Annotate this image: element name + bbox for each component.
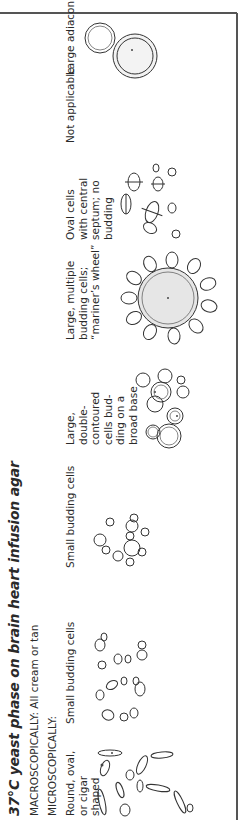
septate-oval-cells-illustration — [120, 142, 230, 242]
column-label-3: Small budding cells — [64, 448, 77, 568]
small-oval-budding-cells-illustration — [90, 575, 236, 725]
rotated-figure-table: 37°C yeast phase on brain heart infusion… — [0, 0, 248, 820]
small-round-budding-cells-illustration — [90, 450, 236, 570]
cigar-shaped-yeast-cells-illustration — [90, 730, 236, 820]
microscopic-heading: MICROSCOPICALLY: — [46, 716, 58, 816]
column-label-5: Large, multiple budding cells; “mariner’… — [64, 244, 102, 340]
adiaconidia-illustration — [80, 10, 180, 90]
mariners-wheel-cell-illustration — [112, 240, 236, 350]
column-label-4-text: Large, double-contoured cells bud-ding o… — [64, 386, 139, 445]
column-label-4: Large, double-contoured cells bud-ding o… — [64, 381, 139, 445]
column-label-2: Small budding cells — [64, 584, 77, 724]
figure-title: 37°C yeast phase on brain heart infusion… — [6, 461, 22, 816]
column-label-8: Large adiaconidia — [64, 0, 77, 75]
macroscopic-description: MACROSCOPICALLY: All cream or tan — [28, 625, 40, 816]
broad-base-budding-cells-illustration — [135, 340, 235, 450]
table-border-bottom — [236, 13, 238, 820]
column-label-6: Oval cells with central septum; no buddi… — [64, 174, 114, 240]
